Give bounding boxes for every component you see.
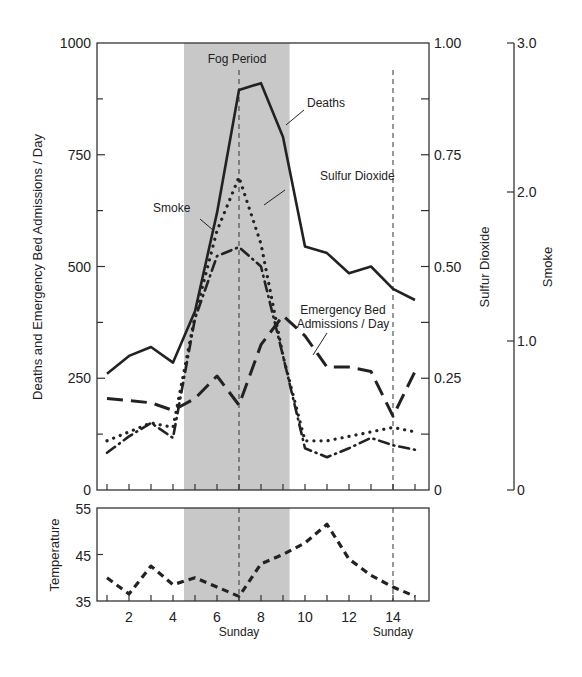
left-axis-title: Deaths and Emergency Bed Admissions / Da… bbox=[30, 134, 45, 400]
emergency-leader bbox=[313, 333, 327, 355]
fog-period-label: Fog Period bbox=[208, 52, 267, 66]
smoke-label: Smoke bbox=[153, 201, 191, 215]
london-fog-chart: 24681012140250500750100000.250.500.751.0… bbox=[0, 0, 582, 677]
svg-text:8: 8 bbox=[257, 609, 265, 625]
svg-text:55: 55 bbox=[75, 501, 91, 517]
svg-text:12: 12 bbox=[341, 609, 357, 625]
svg-text:10: 10 bbox=[297, 609, 313, 625]
svg-text:250: 250 bbox=[68, 370, 92, 386]
svg-text:750: 750 bbox=[68, 147, 92, 163]
emergency-label-line1: Emergency Bed bbox=[300, 303, 385, 317]
svg-text:1.00: 1.00 bbox=[434, 35, 461, 51]
emergency-label-line2: Admissions / Day bbox=[297, 317, 390, 331]
svg-text:35: 35 bbox=[75, 594, 91, 610]
svg-text:500: 500 bbox=[68, 259, 92, 275]
svg-text:4: 4 bbox=[169, 609, 177, 625]
temperature-axis-title: Temperature bbox=[47, 519, 62, 592]
smoke-axis-title: Smoke bbox=[540, 247, 555, 287]
sulfur-dioxide-axis-title: Sulfur Dioxide bbox=[477, 227, 492, 308]
svg-text:0.25: 0.25 bbox=[434, 370, 461, 386]
svg-text:2: 2 bbox=[125, 609, 133, 625]
svg-text:0: 0 bbox=[517, 482, 525, 498]
sulfur-dioxide-label: Sulfur Dioxide bbox=[320, 169, 395, 183]
svg-text:0: 0 bbox=[434, 482, 442, 498]
sunday-label-2: Sunday bbox=[373, 625, 414, 639]
deaths-label: Deaths bbox=[307, 96, 345, 110]
svg-text:6: 6 bbox=[213, 609, 221, 625]
svg-text:2.0: 2.0 bbox=[517, 184, 537, 200]
svg-text:1.0: 1.0 bbox=[517, 333, 537, 349]
sunday-label-1: Sunday bbox=[219, 625, 260, 639]
svg-text:45: 45 bbox=[75, 548, 91, 564]
svg-text:14: 14 bbox=[385, 609, 401, 625]
svg-text:3.0: 3.0 bbox=[517, 35, 537, 51]
svg-text:0.50: 0.50 bbox=[434, 259, 461, 275]
svg-text:1000: 1000 bbox=[60, 35, 91, 51]
svg-text:0.75: 0.75 bbox=[434, 147, 461, 163]
svg-text:0: 0 bbox=[83, 482, 91, 498]
